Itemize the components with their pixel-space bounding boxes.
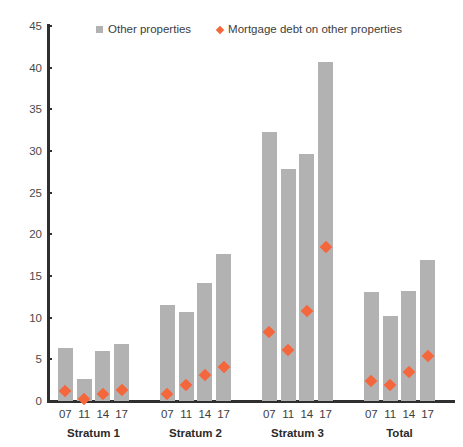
y-axis-tick-label: 15	[20, 270, 42, 282]
bar	[262, 132, 277, 401]
x-axis-year-label: 11	[384, 408, 396, 420]
x-axis-year-label: 17	[217, 408, 230, 420]
x-axis-group-label: Stratum 2	[169, 427, 222, 439]
x-axis-year-label: 14	[96, 408, 109, 420]
chart-container: Other properties Mortgage debt on other …	[0, 0, 463, 447]
y-axis-tick-label: 40	[20, 62, 42, 74]
bar	[216, 254, 231, 402]
x-axis-group-label: Stratum 3	[271, 427, 324, 439]
x-axis-year-label: 14	[198, 408, 211, 420]
x-axis-year-label: 14	[300, 408, 313, 420]
y-axis-tick-label: 5	[20, 353, 42, 365]
plot-area	[47, 26, 455, 401]
x-axis-year-label: 07	[365, 408, 378, 420]
x-axis-group-label: Total	[386, 427, 413, 439]
bar	[318, 62, 333, 401]
x-axis-year-label: 17	[421, 408, 434, 420]
x-axis-year-label: 14	[402, 408, 415, 420]
x-axis-year-label: 17	[115, 408, 128, 420]
bar	[281, 169, 296, 402]
bar	[401, 291, 416, 401]
bar	[197, 283, 212, 401]
x-axis-year-label: 07	[161, 408, 174, 420]
x-axis-year-label: 07	[59, 408, 72, 420]
x-axis-year-label: 17	[319, 408, 332, 420]
bar	[299, 154, 314, 401]
bar	[420, 260, 435, 401]
y-axis-tick-label: 25	[20, 187, 42, 199]
y-axis-tick-label: 45	[20, 20, 42, 32]
x-axis-year-label: 11	[180, 408, 192, 420]
y-axis-tick-label: 20	[20, 228, 42, 240]
y-axis-tick-label: 10	[20, 312, 42, 324]
y-axis-tick-labels: 051015202530354045	[16, 0, 42, 447]
bar	[160, 305, 175, 401]
y-axis-tick-label: 30	[20, 145, 42, 157]
x-axis-year-label: 11	[282, 408, 294, 420]
x-axis-year-label: 07	[263, 408, 276, 420]
y-axis-tick-label: 35	[20, 103, 42, 115]
x-axis-group-label: Stratum 1	[67, 427, 120, 439]
x-axis-year-label: 11	[78, 408, 90, 420]
x-axis-labels: 07111417Stratum 107111417Stratum 2071114…	[47, 404, 455, 444]
y-axis-tick-label: 0	[20, 395, 42, 407]
